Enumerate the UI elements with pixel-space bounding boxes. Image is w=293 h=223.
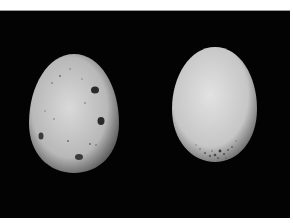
left-egg [29, 54, 119, 173]
eggs-illustration [0, 11, 290, 218]
right-egg [172, 47, 257, 162]
egg-photo [0, 10, 290, 218]
